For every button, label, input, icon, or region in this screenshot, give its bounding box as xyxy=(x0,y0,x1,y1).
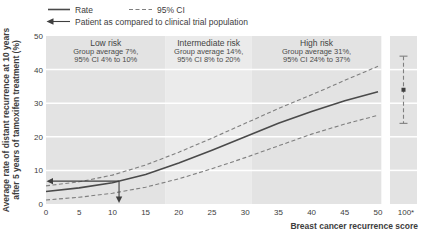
x-tick-15: 15 xyxy=(141,208,150,217)
x-tick-35: 35 xyxy=(274,208,283,217)
y-axis-title-line2: after 5 years of tamoxifen treatment (%) xyxy=(11,40,21,200)
band-label: 95% CI 4% to 10% xyxy=(74,55,137,64)
x-tick-25: 25 xyxy=(208,208,217,217)
patient-arrow-swatch-head-icon xyxy=(47,18,54,24)
y-axis-title-line1: Average rate of distant recurrence at 10… xyxy=(1,28,11,213)
recurrence-score-chart: Low riskGroup average 7%,95% CI 4% to 10… xyxy=(0,0,429,236)
x-axis-title: Breast cancer recurrence score xyxy=(290,221,418,231)
x-tick-20: 20 xyxy=(174,208,183,217)
x-tick-5: 5 xyxy=(77,208,82,217)
y-tick-20: 20 xyxy=(34,133,43,142)
legend-ci-label: 95% CI xyxy=(157,5,185,15)
x-tick-0: 0 xyxy=(44,208,49,217)
outlier-point-marker xyxy=(402,88,406,92)
y-tick-30: 30 xyxy=(34,99,43,108)
x-tick-30: 30 xyxy=(241,208,250,217)
x-tick-50: 50 xyxy=(374,208,383,217)
x-tick-100: 100* xyxy=(398,208,414,217)
y-tick-40: 40 xyxy=(34,66,43,75)
legend-patient-label: Patient as compared to clinical trial po… xyxy=(75,17,248,27)
band-label: High risk xyxy=(300,38,334,48)
y-tick-10: 10 xyxy=(34,166,43,175)
band-label: 95% CI 8% to 20% xyxy=(177,55,240,64)
y-tick-50: 50 xyxy=(34,32,43,41)
band-label: Low risk xyxy=(90,38,122,48)
chart-container: Low riskGroup average 7%,95% CI 4% to 10… xyxy=(0,0,429,236)
legend: Rate 95% CI Patient as compared to clini… xyxy=(47,5,249,27)
legend-rate-label: Rate xyxy=(75,5,93,15)
x-tick-40: 40 xyxy=(307,208,316,217)
x-tick-45: 45 xyxy=(340,208,349,217)
outlier-band xyxy=(390,36,417,204)
x-tick-10: 10 xyxy=(108,208,117,217)
risk-band-labels: Low riskGroup average 7%,95% CI 4% to 10… xyxy=(73,38,351,64)
band-label: Intermediate risk xyxy=(177,38,241,48)
band-label: 95% CI 24% to 37% xyxy=(283,55,350,64)
